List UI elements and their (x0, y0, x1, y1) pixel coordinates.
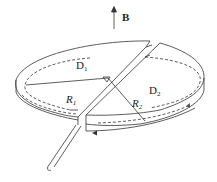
region-d1-sub: 1 (84, 65, 88, 73)
region-label-d2: D2 (149, 85, 160, 98)
radius-label-r2: R2 (132, 98, 142, 111)
region-label-d1: D1 (76, 60, 87, 73)
radius-r1-base: R (66, 93, 73, 105)
radius-label-r1: R1 (66, 94, 76, 107)
gap-slot (78, 41, 160, 117)
top-rim-left (16, 41, 150, 108)
radius-r1-sub: 1 (73, 99, 77, 107)
radius-r1-line (26, 78, 108, 85)
region-d1-base: D (76, 59, 84, 71)
magnetic-field-arrow-icon (112, 7, 117, 30)
region-d2-sub: 2 (157, 90, 161, 98)
cyclotron-diagram (0, 0, 217, 182)
radius-r2-sub: 2 (139, 103, 143, 111)
field-label-b: B (122, 12, 129, 23)
top-rim-right (160, 43, 204, 110)
extraction-tube (48, 125, 81, 171)
radius-r2-base: R (132, 97, 139, 109)
region-d2-base: D (149, 84, 157, 96)
